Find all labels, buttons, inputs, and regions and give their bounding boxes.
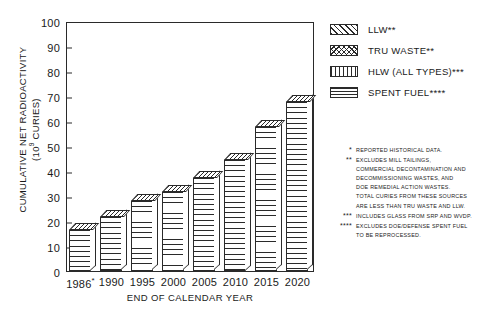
bar <box>255 126 277 271</box>
bar <box>193 177 215 271</box>
x-axis-tick-label: 2010 <box>223 276 248 288</box>
y-axis-title-exponent: 9 <box>28 142 35 146</box>
footnote-text: REPORTED HISTORICAL DATA. <box>356 146 478 155</box>
y-axis-tick-label: 40 <box>47 167 67 179</box>
bar-side-face <box>121 210 127 270</box>
bar <box>162 191 184 271</box>
y-axis-tick-mark <box>67 173 72 174</box>
footnote-line: EXCLUDES MILL TAILINGS, <box>356 156 478 165</box>
y-axis-tick-mark <box>67 223 72 224</box>
footnote-marker: *** <box>330 211 352 220</box>
bar <box>224 159 246 272</box>
footnote-marker: **** <box>330 221 352 230</box>
footnote-line: TOTAL CURIES FROM THESE SOURCES <box>356 192 478 201</box>
bar-side-face <box>276 120 282 270</box>
x-axis-label-footnote-marker: * <box>91 276 94 285</box>
y-axis-tick-label: 20 <box>47 217 67 229</box>
bar-side-face <box>214 171 220 270</box>
footnote-line: INCLUDES GLASS FROM SRP AND WVDP. <box>356 212 478 221</box>
y-axis-tick-mark <box>67 48 72 49</box>
footnote: ****EXCLUDES DOE/DEFENSE SPENT FUELTO BE… <box>330 222 478 240</box>
legend-item: TRU WASTE** <box>330 41 478 60</box>
y-axis-title-line2: (109 CURIES) <box>28 15 40 245</box>
footnote-text: EXCLUDES DOE/DEFENSE SPENT FUELTO BE REP… <box>356 222 478 240</box>
footnote-text: EXCLUDES MILL TAILINGS,COMMERCIAL DECONT… <box>356 156 478 211</box>
y-axis-tick-mark <box>67 123 72 124</box>
footnote: *REPORTED HISTORICAL DATA. <box>330 146 478 155</box>
x-axis-tick-label: 2000 <box>161 276 186 288</box>
bar-side-face <box>307 95 313 270</box>
legend-item-label: TRU WASTE** <box>368 45 434 56</box>
x-axis-tick-label: 2005 <box>192 276 217 288</box>
footnote-line: TO BE REPROCESSED. <box>356 231 478 240</box>
y-axis-tick-mark <box>67 148 72 149</box>
y-axis-tick-label: 0 <box>54 267 67 279</box>
y-axis-tick-label: 80 <box>47 67 67 79</box>
plot-area: CUMULATIVE NET RADIOACTIVITY (109 CURIES… <box>0 0 320 313</box>
y-axis-title-unit-prefix: (10 <box>30 146 41 161</box>
y-axis-tick-label: 60 <box>47 117 67 129</box>
y-axis-title-unit-suffix: CURIES) <box>30 98 41 142</box>
footnote: ***INCLUDES GLASS FROM SRP AND WVDP. <box>330 212 478 221</box>
x-axis-tick-label: 2020 <box>285 276 310 288</box>
footnote-line: EXCLUDES DOE/DEFENSE SPENT FUEL <box>356 222 478 231</box>
x-axis-tick-label: 1995 <box>130 276 155 288</box>
y-axis-tick-mark <box>67 73 72 74</box>
vertical-lines-swatch <box>330 66 358 77</box>
cross-hatch-swatch <box>330 45 358 56</box>
y-axis-tick-mark <box>67 198 72 199</box>
bar-top-face <box>69 223 99 230</box>
footnote-line: REPORTED HISTORICAL DATA. <box>356 146 478 155</box>
bar-side-face <box>152 193 158 270</box>
horizontal-lines-swatch <box>330 87 358 98</box>
chart-figure: CUMULATIVE NET RADIOACTIVITY (109 CURIES… <box>0 0 478 313</box>
axes-frame: 0102030405060708090100 1986*199019952000… <box>66 22 314 272</box>
y-axis-tick-label: 50 <box>47 142 67 154</box>
footnote: **EXCLUDES MILL TAILINGS,COMMERCIAL DECO… <box>330 156 478 211</box>
bar-side-face <box>245 152 251 270</box>
bar <box>100 216 122 271</box>
footnote-line: COMMERCIAL DECONTAMINATION AND <box>356 165 478 174</box>
y-axis-title: CUMULATIVE NET RADIOACTIVITY (109 CURIES… <box>17 15 40 245</box>
legend-item: LLW** <box>330 20 478 39</box>
y-axis-tick-label: 10 <box>47 242 67 254</box>
x-axis-tick-label: 1990 <box>99 276 124 288</box>
x-axis-tick-label: 1986* <box>66 276 95 290</box>
y-axis-tick-label: 70 <box>47 92 67 104</box>
footnote-text: INCLUDES GLASS FROM SRP AND WVDP. <box>356 212 478 221</box>
footnote-line: DECOMMISSIONING WASTES, AND <box>356 174 478 183</box>
legend-item: HLW (ALL TYPES)*** <box>330 62 478 81</box>
footnote-line: ARE LESS THAN TRU WASTE AND LLW. <box>356 202 478 211</box>
footnote-marker: * <box>330 145 352 154</box>
y-axis-tick-label: 100 <box>41 17 67 29</box>
footnotes: *REPORTED HISTORICAL DATA.**EXCLUDES MIL… <box>330 146 478 241</box>
y-axis-title-line1: CUMULATIVE NET RADIOACTIVITY <box>17 15 28 245</box>
y-axis-tick-mark <box>67 98 72 99</box>
bar-side-face <box>183 185 189 270</box>
legend-item: SPENT FUEL**** <box>330 83 478 102</box>
diagonal-hatch-swatch <box>330 24 358 35</box>
legend-item-label: SPENT FUEL**** <box>368 87 445 98</box>
bar <box>69 229 91 272</box>
legend: LLW**TRU WASTE**HLW (ALL TYPES)***SPENT … <box>330 20 478 104</box>
x-axis-title: END OF CALENDAR YEAR <box>66 292 314 303</box>
footnote-line: DOE REMEDIAL ACTION WASTES. <box>356 183 478 192</box>
y-axis-tick-label: 30 <box>47 192 67 204</box>
bar-top-face <box>224 153 254 160</box>
bar <box>286 101 308 271</box>
y-axis-tick-label: 90 <box>47 42 67 54</box>
legend-item-label: LLW** <box>368 24 396 35</box>
x-axis-tick-label: 2015 <box>254 276 279 288</box>
footnote-marker: ** <box>330 155 352 164</box>
legend-item-label: HLW (ALL TYPES)*** <box>368 66 464 77</box>
bar <box>131 200 153 271</box>
